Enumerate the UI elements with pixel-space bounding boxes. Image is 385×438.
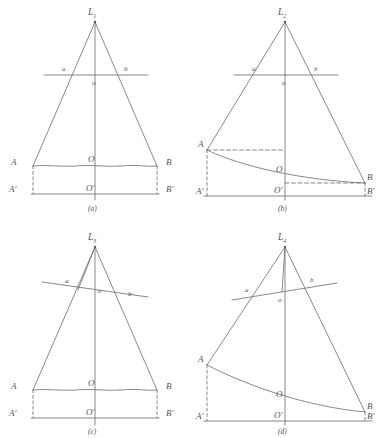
panel-a-right-ray bbox=[95, 22, 157, 166]
panel-c-ground-center-label: O bbox=[88, 378, 95, 388]
panel-c bbox=[31, 246, 159, 425]
panel-d-aperture-left-label: a bbox=[245, 286, 249, 294]
panel-d-datum-left-label: A' bbox=[195, 411, 204, 421]
panel-a-aperture-left-label: a bbox=[62, 65, 66, 73]
panel-a-ground-left-label: A bbox=[10, 157, 17, 167]
figure-canvas: L1 a b o A B O A' B' O' (a) L2 a b o A B… bbox=[0, 0, 385, 438]
panel-c-right-ray bbox=[95, 247, 157, 390]
panel-b-aperture-center-label: o bbox=[282, 79, 286, 87]
panel-b-ground-left-label: A bbox=[197, 139, 204, 149]
panel-d-apex-drop-line bbox=[282, 247, 285, 292]
panel-a-source-point bbox=[94, 21, 96, 23]
panel-c-caption: (c) bbox=[88, 427, 97, 436]
panel-b-aperture-left-label: a bbox=[252, 65, 256, 73]
panel-c-ground-right-label: B bbox=[166, 381, 172, 391]
panel-c-datum-right-label: B' bbox=[166, 408, 174, 418]
panel-d-ground-right-label: B bbox=[367, 401, 373, 411]
panel-d-left-ray bbox=[207, 247, 285, 365]
panel-a-datum-right-label: B' bbox=[166, 184, 174, 194]
panel-a-source-label: L1 bbox=[87, 7, 96, 19]
panel-a-aperture-right-label: b bbox=[124, 65, 128, 73]
panel-d bbox=[204, 246, 372, 425]
panel-c-aperture-left-label: a bbox=[65, 277, 69, 285]
panel-a bbox=[31, 21, 159, 200]
panel-b-datum-right-label: B' bbox=[367, 186, 375, 196]
four-panel-diagram: L1 a b o A B O A' B' O' (a) L2 a b o A B… bbox=[0, 0, 385, 438]
panel-d-aperture-center-label: o bbox=[278, 296, 282, 304]
panel-c-source-label: L3 bbox=[87, 232, 96, 244]
panel-c-aperture-center-label: o bbox=[98, 287, 102, 295]
panel-a-datum-center-label: O' bbox=[86, 183, 95, 193]
panel-c-aperture-right-label: b bbox=[128, 290, 132, 298]
panel-c-ground-left-label: A bbox=[10, 381, 17, 391]
panel-b-left-ray bbox=[207, 22, 285, 150]
panel-b-datum-left-label: A' bbox=[195, 186, 204, 196]
panel-b-ground-center-label: O bbox=[276, 164, 283, 174]
panel-a-ground-center-label: O bbox=[88, 154, 95, 164]
panel-b-ground-curve bbox=[207, 150, 365, 183]
panel-d-ground-curve bbox=[207, 365, 365, 412]
panel-b-ground-right-label: B bbox=[367, 172, 373, 182]
panel-b-datum-center-label: O' bbox=[274, 185, 283, 195]
panel-b-aperture-right-label: b bbox=[314, 65, 318, 73]
panel-b-source-point bbox=[284, 21, 286, 23]
panel-b-source-label: L2 bbox=[277, 7, 286, 19]
panel-c-apex-drop-line bbox=[78, 247, 95, 290]
panel-c-datum-left-label: A' bbox=[8, 408, 17, 418]
panel-a-left-ray bbox=[33, 22, 95, 166]
panel-a-caption: (a) bbox=[88, 204, 97, 213]
panel-d-datum-center-label: O' bbox=[274, 410, 283, 420]
panel-b-caption: (b) bbox=[278, 204, 287, 213]
panel-c-left-ray bbox=[33, 247, 95, 390]
panel-b bbox=[204, 21, 372, 200]
panel-d-ground-center-label: O bbox=[276, 389, 283, 399]
panel-d-aperture-right-label: b bbox=[310, 276, 314, 284]
panel-b-right-ray bbox=[285, 22, 365, 183]
panel-a-aperture-center-label: o bbox=[92, 79, 96, 87]
panel-c-datum-center-label: O' bbox=[86, 407, 95, 417]
panel-d-caption: (d) bbox=[278, 427, 287, 436]
panel-d-ground-left-label: A bbox=[197, 354, 204, 364]
panel-a-datum-left-label: A' bbox=[8, 184, 17, 194]
panel-d-datum-right-label: B' bbox=[367, 411, 375, 421]
panel-d-source-label: L4 bbox=[277, 232, 286, 244]
panel-a-ground-right-label: B bbox=[166, 157, 172, 167]
panel-d-right-ray bbox=[285, 247, 365, 412]
